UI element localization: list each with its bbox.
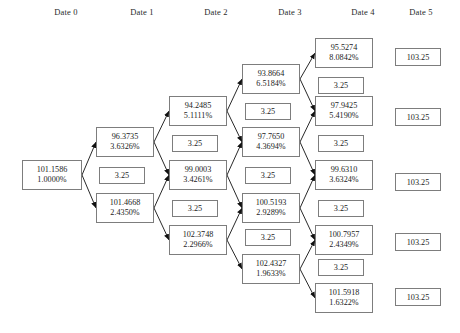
node-rate: 6.5184% [256, 79, 285, 89]
lattice-node: 102.43271.9633% [242, 254, 300, 284]
coupon-box: 3.25 [99, 167, 145, 184]
node-price: 102.3748 [183, 230, 214, 240]
node-price: 100.7957 [329, 230, 360, 240]
lattice-edge [300, 269, 315, 298]
lattice-node: 94.24855.1111% [169, 96, 227, 126]
coupon-box: 3.25 [318, 135, 364, 152]
node-rate: 2.9289% [256, 208, 285, 218]
node-price: 100.5193 [256, 198, 287, 208]
coupon-box: 3.25 [245, 167, 291, 184]
terminal-value-box: 103.25 [395, 288, 441, 306]
lattice-node: 100.51932.9289% [242, 193, 300, 223]
lattice-edge [82, 142, 96, 175]
terminal-value-box: 103.25 [395, 48, 441, 66]
coupon-box: 3.25 [318, 200, 364, 217]
lattice-edge [300, 111, 315, 142]
column-header-3: Date 3 [250, 7, 330, 17]
column-header-2: Date 2 [176, 7, 256, 17]
node-price: 99.0003 [185, 165, 212, 175]
node-price: 101.1586 [37, 165, 68, 175]
lattice-edge [227, 142, 242, 175]
node-rate: 3.4261% [183, 175, 212, 185]
lattice-edge [227, 240, 242, 269]
lattice-node: 96.37353.6326% [96, 127, 154, 157]
node-price: 95.5274 [331, 43, 358, 53]
node-rate: 2.4349% [329, 240, 358, 250]
node-rate: 1.9633% [256, 269, 285, 279]
lattice-node: 102.37482.2966% [169, 225, 227, 255]
lattice-node: 100.79572.4349% [315, 225, 373, 255]
coupon-box: 3.25 [245, 103, 291, 120]
lattice-edge [300, 240, 315, 269]
lattice-node: 99.63103.6324% [315, 160, 373, 190]
lattice-node: 101.59181.6322% [315, 283, 373, 313]
node-rate: 1.6322% [329, 298, 358, 308]
lattice-edge [154, 111, 169, 142]
terminal-value-box: 103.25 [395, 233, 441, 251]
node-rate: 1.0000% [37, 175, 66, 185]
lattice-edge [300, 142, 315, 175]
node-rate: 2.2966% [183, 240, 212, 250]
column-header-1: Date 1 [102, 7, 182, 17]
terminal-value-box: 103.25 [395, 173, 441, 191]
node-price: 102.4327 [256, 259, 287, 269]
lattice-node: 101.15861.0000% [22, 160, 82, 190]
column-header-5: Date 5 [381, 7, 460, 17]
lattice-edge [82, 175, 96, 208]
lattice-node: 95.52748.0842% [315, 38, 373, 68]
lattice-edge [300, 175, 315, 208]
node-price: 101.4668 [110, 198, 141, 208]
lattice-edge [154, 142, 169, 175]
coupon-box: 3.25 [318, 259, 364, 276]
node-price: 97.9425 [331, 101, 358, 111]
lattice-edge [227, 175, 242, 208]
lattice-node: 97.94255.4190% [315, 96, 373, 126]
coupon-box: 3.25 [172, 200, 218, 217]
node-rate: 2.4350% [110, 208, 139, 218]
lattice-edge [154, 208, 169, 240]
lattice-edge [227, 208, 242, 240]
node-rate: 3.6324% [329, 175, 358, 185]
terminal-value-box: 103.25 [395, 108, 441, 126]
lattice-edge [154, 175, 169, 208]
lattice-node: 93.86646.5184% [242, 64, 300, 94]
coupon-box: 3.25 [318, 77, 364, 94]
lattice-node: 99.00033.4261% [169, 160, 227, 190]
coupon-box: 3.25 [172, 135, 218, 152]
lattice-edge [300, 79, 315, 111]
node-rate: 5.4190% [329, 111, 358, 121]
node-rate: 8.0842% [329, 53, 358, 63]
coupon-box: 3.25 [245, 229, 291, 246]
lattice-node: 101.46682.4350% [96, 193, 154, 223]
node-price: 99.6310 [331, 165, 358, 175]
node-price: 93.8664 [258, 69, 285, 79]
node-rate: 5.1111% [184, 111, 212, 121]
lattice-edge [227, 111, 242, 142]
lattice-edge [227, 79, 242, 111]
lattice-diagram: Date 0Date 1Date 2Date 3Date 4Date 5 101… [0, 0, 460, 333]
node-price: 101.5918 [329, 288, 360, 298]
column-header-0: Date 0 [26, 7, 106, 17]
node-price: 97.7650 [258, 132, 285, 142]
node-rate: 3.6326% [110, 142, 139, 152]
node-rate: 4.3694% [256, 142, 285, 152]
lattice-node: 97.76504.3694% [242, 127, 300, 157]
node-price: 96.3735 [112, 132, 139, 142]
lattice-edge [300, 208, 315, 240]
node-price: 94.2485 [185, 101, 212, 111]
lattice-edge [300, 53, 315, 79]
